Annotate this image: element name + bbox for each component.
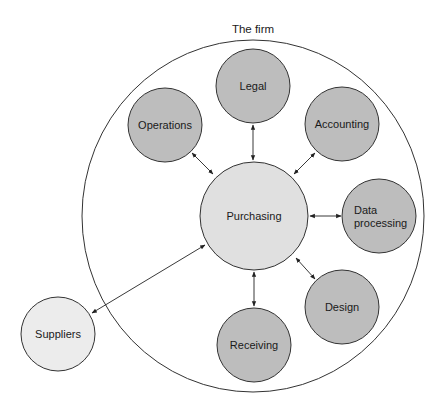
department-node-legal: Legal [216, 49, 290, 123]
firm-title: The firm [232, 23, 274, 35]
department-node-receiving: Receiving [217, 308, 291, 382]
legal-label: Legal [240, 80, 267, 92]
hub-node-purchasing: Purchasing [200, 162, 308, 270]
external-node-suppliers: Suppliers [21, 297, 95, 371]
arrow-purchasing-operations [192, 153, 213, 174]
department-node-design: Design [305, 270, 379, 344]
arrow-purchasing-design [296, 258, 315, 279]
purchasing-label: Purchasing [226, 210, 281, 222]
data-processing-label-line-2: processing [354, 217, 407, 229]
accounting-label: Accounting [315, 118, 369, 130]
arrow-purchasing-accounting [294, 153, 315, 174]
arrow-purchasing-suppliers [92, 245, 205, 313]
department-node-operations: Operations [128, 88, 202, 162]
receiving-label: Receiving [230, 339, 278, 351]
operations-label: Operations [138, 119, 192, 131]
data-processing-label-line-1: Data [354, 204, 378, 216]
department-node-data-processing: Dataprocessing [342, 179, 416, 253]
design-label: Design [325, 301, 359, 313]
department-node-accounting: Accounting [305, 87, 379, 161]
firm-purchasing-diagram: The firm PurchasingLegalOperationsAccoun… [0, 0, 447, 415]
suppliers-label: Suppliers [35, 328, 81, 340]
nodes-layer: PurchasingLegalOperationsAccountingDatap… [21, 49, 416, 382]
